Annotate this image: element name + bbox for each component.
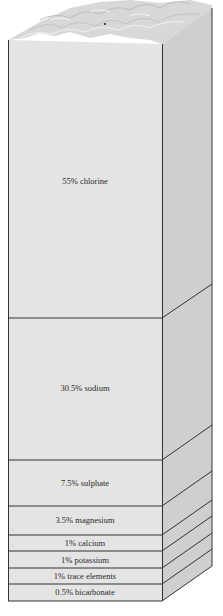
layer-label-bicarbonate: 0.5% bicarbonate <box>8 588 162 597</box>
layer-label-magnesium: 3.5% magnesium <box>8 516 162 525</box>
column-side-face <box>162 8 212 601</box>
layer-label-sodium: 30.5% sodium <box>8 384 162 393</box>
layer-label-sulphate: 7.5% sulphate <box>8 479 162 488</box>
layer-label-chlorine: 55% chlorine <box>8 177 162 186</box>
layer-label-calcium: 1% calcium <box>8 539 162 548</box>
layer-label-trace-elements: 1% trace elements <box>8 572 162 581</box>
layer-label-potassium: 1% potassium <box>8 556 162 565</box>
